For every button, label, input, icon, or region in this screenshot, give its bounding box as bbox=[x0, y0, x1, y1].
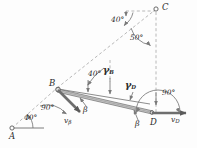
angle-label-C-50: 50° bbox=[130, 34, 143, 42]
pin-joint-A bbox=[10, 126, 14, 130]
angle-label-B-40: 40° bbox=[88, 70, 101, 78]
point-label-A: A bbox=[9, 132, 15, 141]
beta-label-lower: β bbox=[135, 120, 140, 128]
angle-label-C-40: 40° bbox=[111, 16, 124, 24]
angle-label-B-90: 90° bbox=[41, 104, 54, 112]
gamma-B-label: γB bbox=[103, 65, 114, 75]
v-beta-label: vβ bbox=[64, 117, 71, 125]
point-label-D: D bbox=[150, 118, 157, 127]
beta-label-upper: β bbox=[83, 106, 88, 114]
dashed-line-BC bbox=[57, 10, 155, 88]
ground-reference-A bbox=[10, 126, 44, 130]
angle-label-A-40: 40° bbox=[24, 114, 37, 122]
kinematics-diagram: A B C D 40° 90° 40° 40° 50° 90° γB γD β … bbox=[0, 0, 197, 148]
joint-C bbox=[154, 7, 158, 11]
angle-label-D-90: 90° bbox=[162, 89, 175, 97]
gamma-D-label: γD bbox=[125, 80, 136, 90]
v-D-label: vD bbox=[171, 116, 180, 124]
point-label-C: C bbox=[162, 3, 169, 12]
point-label-B: B bbox=[49, 79, 55, 88]
